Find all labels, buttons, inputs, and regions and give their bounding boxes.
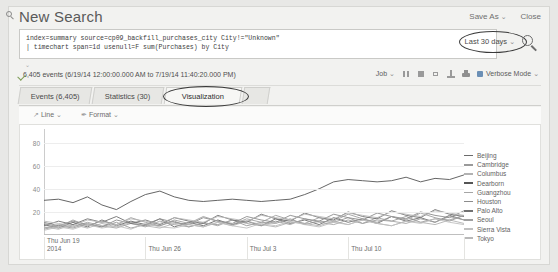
query-line-1: index=summary source=cp09_backfill_purch… xyxy=(26,34,490,43)
x-axis-separator xyxy=(145,237,146,259)
x-axis-tick-label: Thu Jun 26 xyxy=(148,245,181,253)
visualization-chart: 20406080 BeijingCambridgeColumbusDearbor… xyxy=(19,124,541,260)
job-label: Job xyxy=(376,70,387,77)
chart-series-lines xyxy=(44,131,464,235)
chart-legend: BeijingCambridgeColumbusDearbornGuangzho… xyxy=(464,151,536,243)
chart-type-label: Line xyxy=(41,111,54,118)
legend-label: Beijing xyxy=(477,152,497,159)
format-label: Format xyxy=(89,111,111,118)
print-icon[interactable] xyxy=(462,70,470,78)
legend-label: Houston xyxy=(477,198,501,205)
stop-icon[interactable] xyxy=(417,70,425,78)
x-axis-separator xyxy=(247,237,248,259)
events-count-text: 6,405 events (6/19/14 12:00:00.000 AM to… xyxy=(23,71,236,78)
legend-color-swatch xyxy=(464,219,473,221)
x-axis-tick-label: Thu Jul 3 xyxy=(250,245,277,253)
chevron-down-icon: ⌄ xyxy=(56,111,62,118)
gridline xyxy=(44,212,464,213)
chevron-down-icon: ⌄ xyxy=(533,70,539,77)
legend-label: Palo Alto xyxy=(477,207,503,214)
legend-color-swatch xyxy=(464,192,473,194)
legend-label: Sierra Vista xyxy=(477,226,510,233)
visualization-tab-highlight-ellipse xyxy=(163,86,249,107)
legend-item[interactable]: Houston xyxy=(464,197,536,206)
x-axis-separator xyxy=(44,237,45,259)
chart-type-selector[interactable]: ↗Line⌄ xyxy=(33,111,62,119)
job-button[interactable]: Job⌄ xyxy=(376,70,395,78)
legend-item[interactable]: Tokyo xyxy=(464,234,536,243)
x-tick-line1: Thu Jul 3 xyxy=(250,245,277,252)
legend-color-swatch xyxy=(464,155,473,157)
events-count: 6,405 events (6/19/14 12:00:00.000 AM to… xyxy=(23,71,236,78)
legend-label: Dearborn xyxy=(477,180,504,187)
format-button[interactable]: ✒Format⌄ xyxy=(81,111,119,119)
x-tick-line1: Thu Jul 10 xyxy=(351,245,381,252)
legend-item[interactable]: Guangzhou xyxy=(464,188,536,197)
tab-events-label: Events (6,405) xyxy=(30,88,79,105)
chart-toolbar: ↗Line⌄ ✒Format⌄ xyxy=(19,107,541,125)
legend-color-swatch xyxy=(464,237,473,239)
legend-color-swatch xyxy=(464,182,473,184)
y-axis-tick-label: 80 xyxy=(33,139,40,146)
legend-item[interactable]: Sierra Vista xyxy=(464,225,536,234)
series-line xyxy=(44,175,464,210)
tab-statistics[interactable]: Statistics (30) xyxy=(92,87,165,104)
query-line-2: | timechart span=1d usenull=F sum(Purcha… xyxy=(26,43,490,52)
line-chart-icon: ↗ xyxy=(33,111,39,118)
legend-item[interactable]: Columbus xyxy=(464,169,536,178)
app-header: New Search Save As⌄ Close xyxy=(9,7,549,29)
save-as-button[interactable]: Save As⌄ xyxy=(469,12,506,21)
legend-item[interactable]: Cambridge xyxy=(464,160,536,169)
export-icon[interactable] xyxy=(447,70,455,78)
search-bar: index=summary source=cp09_backfill_purch… xyxy=(19,29,541,59)
mode-indicator-icon xyxy=(477,71,483,77)
share-icon[interactable] xyxy=(432,70,440,78)
pause-icon[interactable] xyxy=(402,70,410,78)
x-tick-line2: 2014 xyxy=(47,245,61,252)
gridline xyxy=(44,143,464,144)
legend-color-swatch xyxy=(464,164,473,166)
pencil-icon: ✒ xyxy=(81,111,87,118)
legend-item[interactable]: Palo Alto xyxy=(464,206,536,215)
legend-item[interactable]: Dearborn xyxy=(464,179,536,188)
gridline xyxy=(44,189,464,190)
search-icon xyxy=(6,11,15,20)
legend-label: Columbus xyxy=(477,170,506,177)
header-actions: Save As⌄ Close xyxy=(469,12,541,21)
save-as-label: Save As xyxy=(469,12,498,21)
job-controls: Job⌄ Verbose Mode⌄ xyxy=(376,70,539,78)
verbose-mode-selector[interactable]: Verbose Mode⌄ xyxy=(477,70,539,78)
legend-color-swatch xyxy=(464,210,473,212)
legend-label: Tokyo xyxy=(477,235,494,242)
y-axis-tick-label: 60 xyxy=(33,162,40,169)
search-expand-caret[interactable]: ⌄ xyxy=(25,61,30,68)
chevron-down-icon: ⌄ xyxy=(501,13,507,20)
search-input[interactable]: index=summary source=cp09_backfill_purch… xyxy=(19,29,497,59)
close-button[interactable]: Close xyxy=(521,12,541,21)
tab-events[interactable]: Events (6,405) xyxy=(18,87,93,104)
y-axis-tick-label: 20 xyxy=(33,208,40,215)
legend-item[interactable]: Seoul xyxy=(464,215,536,224)
verbose-mode-label: Verbose Mode xyxy=(486,70,531,77)
time-range-highlight-ellipse xyxy=(459,31,527,53)
x-tick-line1: Thu Jun 26 xyxy=(148,245,181,252)
legend-color-swatch xyxy=(464,201,473,203)
close-label: Close xyxy=(521,12,541,21)
y-axis-tick-label: 40 xyxy=(33,185,40,192)
chevron-down-icon: ⌄ xyxy=(389,70,395,77)
legend-color-swatch xyxy=(464,228,473,230)
x-axis-tick-label: Thu Jul 10 xyxy=(351,245,381,253)
legend-label: Cambridge xyxy=(477,161,509,168)
tab-statistics-label: Statistics (30) xyxy=(105,88,150,105)
chart-plot-area: 20406080 xyxy=(44,131,464,235)
legend-label: Guangzhou xyxy=(477,189,511,196)
gridline xyxy=(44,166,464,167)
x-tick-line1: Thu Jun 19 xyxy=(47,237,80,244)
search-submit-button[interactable] xyxy=(519,32,541,54)
legend-item[interactable]: Beijing xyxy=(464,151,536,160)
search-status-bar: 6,405 events (6/19/14 12:00:00.000 AM to… xyxy=(19,69,541,86)
page-title-text: New Search xyxy=(19,8,103,25)
result-tabs: Events (6,405) Statistics (30) Visualiza… xyxy=(19,87,541,106)
x-axis-separator xyxy=(348,237,349,259)
page-title: New Search xyxy=(19,8,103,25)
